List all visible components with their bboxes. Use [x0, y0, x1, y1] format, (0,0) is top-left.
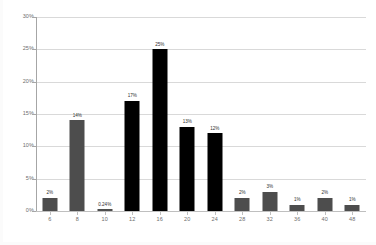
bar-slot: 2% [229, 17, 257, 211]
x-axis-tick [50, 211, 51, 215]
bar[interactable] [207, 133, 222, 211]
bar-value-label: 17% [128, 94, 137, 99]
y-axis-tick-label: 20% [8, 79, 34, 85]
bar[interactable] [152, 49, 167, 211]
bar-value-label: 2% [321, 191, 328, 196]
bar-value-label: 2% [239, 191, 246, 196]
y-axis-tick-label: 25% [8, 46, 34, 52]
x-axis-tick [297, 211, 298, 215]
x-axis-tick-label: 8 [62, 217, 92, 223]
y-axis-tick-label: 30% [8, 14, 34, 20]
x-axis-tick [187, 211, 188, 215]
bar-value-label: 12% [210, 127, 219, 132]
bar-slot: 13% [174, 17, 202, 211]
bar[interactable] [262, 192, 277, 211]
bar-slot: 25% [146, 17, 174, 211]
x-axis-tick [105, 211, 106, 215]
y-axis-tick-label: 0% [8, 208, 34, 214]
x-axis-tick [77, 211, 78, 215]
x-axis-tick-label: 36 [282, 217, 312, 223]
y-axis-tick-label: 10% [8, 143, 34, 149]
bar-value-label: 0.24% [98, 203, 111, 208]
bar-value-label: 1% [294, 198, 301, 203]
bars-layer: 2%14%0.24%17%25%13%12%2%3%1%2%1% [36, 17, 366, 211]
x-axis-tick-label: 48 [337, 217, 367, 223]
bar-slot: 2% [36, 17, 64, 211]
x-axis-labels: 6810121620242832364048 [36, 211, 366, 241]
y-axis-tick-label: 15% [8, 111, 34, 117]
bar-value-label: 2% [46, 191, 53, 196]
bar[interactable] [42, 198, 57, 211]
x-axis-tick [352, 211, 353, 215]
bar-slot: 1% [284, 17, 312, 211]
x-axis-tick-label: 24 [200, 217, 230, 223]
bar-value-label: 25% [155, 43, 164, 48]
bar-value-label: 1% [349, 198, 356, 203]
bar-value-label: 13% [183, 120, 192, 125]
bar[interactable] [70, 120, 85, 211]
bar-slot: 3% [256, 17, 284, 211]
x-axis-tick [132, 211, 133, 215]
bar-chart: 0%5%10%15%20%25%30% 2%14%0.24%17%25%13%1… [0, 0, 376, 245]
x-axis-tick-label: 6 [35, 217, 65, 223]
frame-edge-left [0, 0, 3, 245]
x-axis-tick [270, 211, 271, 215]
bar[interactable] [317, 198, 332, 211]
bar-slot: 12% [201, 17, 229, 211]
bar-slot: 14% [64, 17, 92, 211]
x-axis-tick [242, 211, 243, 215]
x-axis-tick [325, 211, 326, 215]
bar-slot: 1% [339, 17, 367, 211]
bar-value-label: 3% [266, 185, 273, 190]
x-axis-tick-label: 16 [145, 217, 175, 223]
x-axis-tick [215, 211, 216, 215]
bar[interactable] [180, 127, 195, 211]
bar-slot: 2% [311, 17, 339, 211]
x-axis-tick-label: 10 [90, 217, 120, 223]
x-axis-tick [160, 211, 161, 215]
x-axis-tick-label: 28 [227, 217, 257, 223]
bar[interactable] [125, 101, 140, 211]
x-axis-tick-label: 12 [117, 217, 147, 223]
bar-slot: 17% [119, 17, 147, 211]
y-axis-tick-label: 5% [8, 176, 34, 182]
bar-value-label: 14% [73, 114, 82, 119]
bar-slot: 0.24% [91, 17, 119, 211]
bar[interactable] [235, 198, 250, 211]
x-axis-tick-label: 40 [310, 217, 340, 223]
x-axis-tick-label: 20 [172, 217, 202, 223]
x-axis-tick-label: 32 [255, 217, 285, 223]
